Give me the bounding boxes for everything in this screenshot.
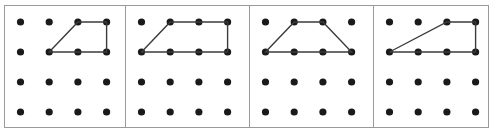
grid-dot (443, 108, 450, 115)
grid-dot (138, 18, 145, 25)
grid-dot (167, 78, 174, 85)
grid-dot (17, 18, 24, 25)
grid-dot (319, 108, 326, 115)
panel-4 (374, 6, 489, 128)
grid-dot (348, 108, 355, 115)
grid-dot (443, 78, 450, 85)
grid-dot (17, 108, 24, 115)
grid-dot (386, 108, 393, 115)
grid-dot (262, 18, 269, 25)
geoboard-figure (0, 0, 500, 139)
grid-dot (415, 78, 422, 85)
grid-dot (386, 18, 393, 25)
grid-dot (415, 108, 422, 115)
grid-dot (386, 78, 393, 85)
grid-dot (348, 78, 355, 85)
grid-dot (262, 78, 269, 85)
grid-dot (17, 78, 24, 85)
grid-dot (195, 108, 202, 115)
grid-dot (74, 108, 81, 115)
grid-dot (46, 78, 53, 85)
grid-dot (262, 108, 269, 115)
grid-dot (138, 108, 145, 115)
grid-dot (224, 108, 231, 115)
grid-dot (415, 18, 422, 25)
grid-dot (167, 108, 174, 115)
grid-dot (138, 78, 145, 85)
panel-2 (126, 6, 250, 128)
grid-dot (46, 18, 53, 25)
grid-dot (319, 78, 326, 85)
panel-1 (5, 6, 126, 128)
grid-dot (103, 108, 110, 115)
grid-dot (17, 48, 24, 55)
grid-dot (291, 108, 298, 115)
grid-dot (291, 78, 298, 85)
grid-dot (46, 108, 53, 115)
grid-dot (472, 108, 479, 115)
grid-dot (195, 78, 202, 85)
grid-dot (224, 78, 231, 85)
grid-dot (103, 78, 110, 85)
panel-3 (250, 6, 374, 128)
grid-dot (348, 18, 355, 25)
grid-dot (472, 78, 479, 85)
geoboard-canvas (0, 0, 500, 139)
panels-layer (5, 6, 489, 128)
grid-dot (74, 78, 81, 85)
